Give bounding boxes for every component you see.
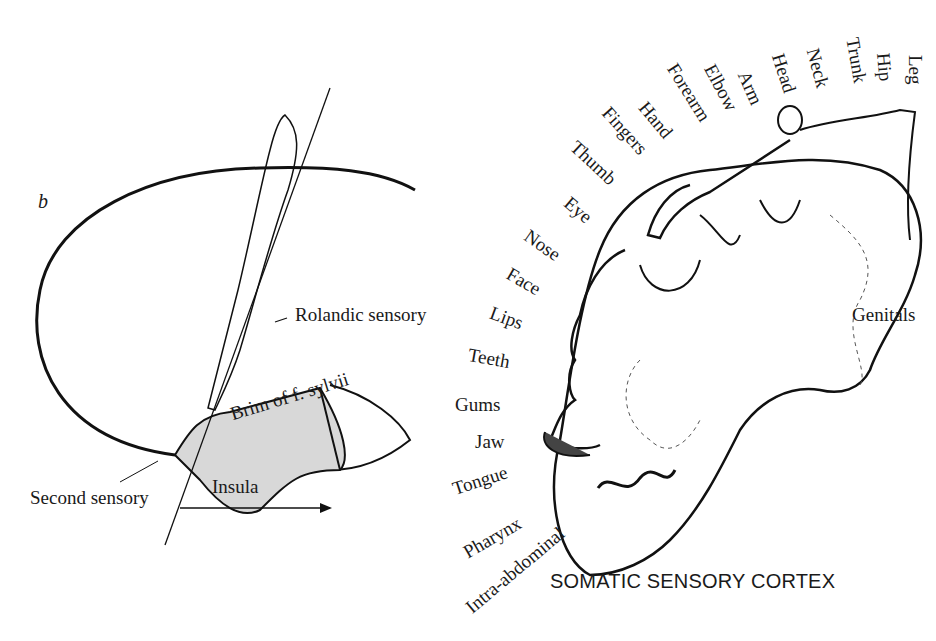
panel-letter: b xyxy=(38,190,48,213)
label-insula: Insula xyxy=(212,477,258,496)
face-profile xyxy=(550,250,625,448)
homunculus-hand xyxy=(648,140,790,238)
label-hip: Hip xyxy=(874,52,895,82)
arrow-head xyxy=(320,503,332,513)
intestines xyxy=(598,470,675,488)
diagram-title: SOMATIC SENSORY CORTEX xyxy=(550,570,835,593)
label-gums: Gums xyxy=(455,395,500,414)
label-leg: Leg xyxy=(906,55,925,85)
homunculus-head xyxy=(778,106,802,134)
rolandic-strip xyxy=(208,115,297,410)
label-second-sensory: Second sensory xyxy=(30,488,149,507)
label-genitals: Genitals xyxy=(852,305,915,324)
cortex-outline-right xyxy=(554,160,921,575)
label-rolandic-sensory: Rolandic sensory xyxy=(295,305,426,324)
label-jaw: Jaw xyxy=(475,432,505,451)
